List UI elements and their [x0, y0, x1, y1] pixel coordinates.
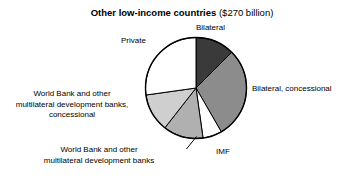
pie-label-bilateral-text: Bilateral	[196, 23, 225, 32]
pie-chart-figure: Other low-income countries ($270 billion…	[0, 0, 364, 179]
pie-label-world-bank-mdb-concessional-line2: multilateral development banks,	[4, 100, 140, 111]
page-title: Other low-income countries ($270 billion…	[0, 7, 364, 19]
pie-slice-private[interactable]	[145, 38, 196, 96]
pie-label-bilateral-concessional: Bilateral, concessional	[252, 84, 332, 95]
pie-label-private-text: Private	[121, 36, 146, 45]
chart-title-main: Other low-income countries	[91, 7, 217, 18]
pie-svg	[145, 37, 247, 139]
pie-label-bilateral: Bilateral	[196, 23, 225, 34]
pie-label-world-bank-mdb-concessional-line3: concessional	[4, 110, 140, 121]
pie-label-imf-text: IMF	[216, 147, 230, 156]
pie-graphic	[145, 37, 247, 139]
pie-label-bilateral-concessional-text: Bilateral, concessional	[252, 84, 332, 93]
chart-title-amount: ($270 billion)	[219, 7, 273, 18]
pie-label-world-bank-mdb-line1: World Bank and other	[16, 145, 182, 156]
pie-label-private: Private	[121, 36, 146, 47]
pie-label-imf: IMF	[216, 147, 230, 158]
pie-label-world-bank-mdb-concessional: World Bank and other multilateral develo…	[4, 89, 140, 121]
pie-label-world-bank-mdb: World Bank and other multilateral develo…	[16, 145, 182, 166]
pie-label-world-bank-mdb-line2: multilateral development banks	[16, 156, 182, 167]
pie-label-world-bank-mdb-concessional-line1: World Bank and other	[4, 89, 140, 100]
